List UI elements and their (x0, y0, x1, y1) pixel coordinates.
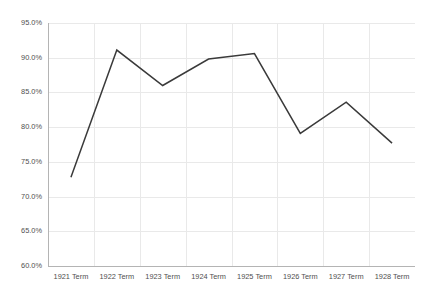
y-axis-tick-label: 75.0% (21, 157, 42, 166)
x-axis-tick-label: 1927 Term (329, 272, 364, 281)
plot-area-background (48, 23, 415, 266)
x-axis-tick-label: 1925 Term (237, 272, 272, 281)
x-axis-tick-label: 1921 Term (54, 272, 89, 281)
y-axis-tick-label: 65.0% (21, 226, 42, 235)
y-axis-tick-label: 90.0% (21, 53, 42, 62)
line-chart-figure: 60.0%65.0%70.0%75.0%80.0%85.0%90.0%95.0%… (0, 0, 435, 297)
y-axis-tick-label: 85.0% (21, 87, 42, 96)
x-axis-tick-label: 1924 Term (191, 272, 226, 281)
x-axis-tick-label: 1926 Term (283, 272, 318, 281)
x-axis-tick-label: 1928 Term (375, 272, 410, 281)
y-axis-tick-label: 60.0% (21, 261, 42, 270)
x-axis-tick-label: 1922 Term (99, 272, 134, 281)
x-axis-tick-label: 1923 Term (145, 272, 180, 281)
y-axis-tick-label: 70.0% (21, 192, 42, 201)
chart-canvas: 60.0%65.0%70.0%75.0%80.0%85.0%90.0%95.0%… (0, 0, 435, 297)
y-axis-tick-label: 80.0% (21, 122, 42, 131)
y-axis-tick-label: 95.0% (21, 18, 42, 27)
